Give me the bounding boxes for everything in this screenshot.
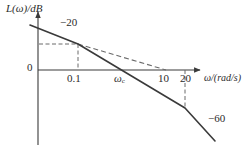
x-axis-label: ω/(rad/s) bbox=[204, 73, 241, 83]
x-tick-label-20: 20 bbox=[180, 73, 191, 84]
x-tick-label-omega-c: ωc bbox=[114, 73, 125, 85]
omega-c-subscript: c bbox=[122, 77, 125, 85]
x-tick-label-10: 10 bbox=[158, 73, 169, 84]
bode-plot-figure: L(ω)/dB ω/(rad/s) 0 0.1 ωc 10 20 −20 −60 bbox=[0, 0, 250, 151]
origin-tick-label: 0 bbox=[27, 62, 33, 73]
x-tick-label-0p1: 0.1 bbox=[67, 73, 81, 84]
minus-20-asymptote-dashed bbox=[78, 44, 166, 70]
y-axis-label: L(ω)/dB bbox=[6, 3, 43, 14]
slope-minus-20-label: −20 bbox=[60, 17, 77, 28]
slope-minus-60-label: −60 bbox=[208, 113, 225, 124]
omega-c-symbol: ω bbox=[114, 72, 122, 84]
